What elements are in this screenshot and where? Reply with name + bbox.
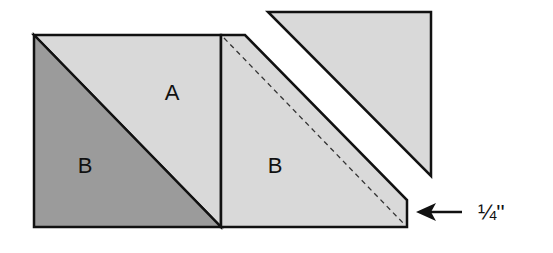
piecing-diagram: A B B ¼'' [0, 0, 553, 253]
seam-allowance-label: ¼'' [478, 200, 505, 225]
arrow-left-icon [416, 203, 462, 221]
label-b-left: B [78, 153, 93, 178]
label-a: A [165, 80, 180, 105]
label-b-right: B [268, 153, 283, 178]
